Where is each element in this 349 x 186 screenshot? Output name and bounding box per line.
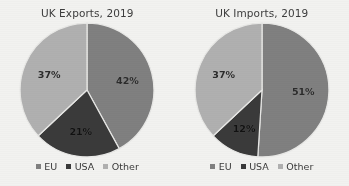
legend-item-other: Other: [103, 162, 138, 172]
chart-panel-imports: UK Imports, 2019 51% 12% 37% EU USA Othe…: [175, 0, 349, 186]
slice-label-exports-other: 37%: [38, 68, 61, 79]
slice-label-imports-eu: 51%: [292, 86, 315, 97]
slice-label-exports-usa: 21%: [69, 126, 92, 137]
legend-item-eu: EU: [210, 162, 231, 172]
legend-item-other: Other: [278, 162, 313, 172]
slice-label-imports-usa: 12%: [233, 122, 256, 133]
legend-label-eu: EU: [219, 162, 232, 172]
legend-item-usa: USA: [66, 162, 94, 172]
pie-chart-figure: UK Exports, 2019 42% 21% 37% EU USA Othe…: [0, 0, 349, 186]
legend-label-eu: EU: [44, 162, 57, 172]
chart-title-imports: UK Imports, 2019: [215, 7, 308, 19]
pie-slices-exports: [20, 23, 154, 157]
pie-chart-imports: 51% 12% 37%: [194, 22, 330, 158]
legend-item-eu: EU: [36, 162, 57, 172]
square-swatch-icon-eu: [36, 164, 41, 169]
square-swatch-icon-other: [103, 164, 108, 169]
chart-panel-exports: UK Exports, 2019 42% 21% 37% EU USA Othe…: [0, 0, 175, 186]
pie-svg-exports: [19, 22, 155, 158]
square-swatch-icon-other: [278, 164, 283, 169]
legend-imports: EU USA Other: [210, 162, 313, 172]
legend-label-usa: USA: [249, 162, 269, 172]
slice-label-exports-eu: 42%: [116, 74, 139, 85]
legend-label-other: Other: [286, 162, 313, 172]
legend-item-usa: USA: [241, 162, 269, 172]
slice-label-imports-other: 37%: [212, 68, 235, 79]
square-swatch-icon-usa: [241, 164, 246, 169]
square-swatch-icon-usa: [66, 164, 71, 169]
legend-label-usa: USA: [75, 162, 95, 172]
pie-chart-exports: 42% 21% 37%: [19, 22, 155, 158]
chart-title-exports: UK Exports, 2019: [41, 7, 134, 19]
square-swatch-icon-eu: [210, 164, 215, 169]
legend-label-other: Other: [112, 162, 139, 172]
legend-exports: EU USA Other: [36, 162, 139, 172]
